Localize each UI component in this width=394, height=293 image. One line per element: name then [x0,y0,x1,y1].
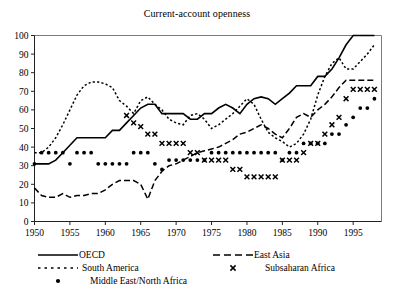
dot-marker [273,151,277,155]
dot-marker [132,151,136,155]
y-tick-label: 0 [24,217,29,227]
x-marker [152,132,157,137]
legend-label-oecd: OECD [79,250,105,260]
y-tick-label: 50 [19,124,29,134]
dot-marker [82,151,86,155]
y-tick-label: 40 [19,143,29,153]
x-marker [252,174,257,179]
dot-marker [231,151,235,155]
x-marker [209,158,214,163]
x-marker [372,87,377,92]
y-tick-label: 90 [19,50,29,60]
chart-title: Current-account openness [0,8,394,19]
x-marker [259,174,264,179]
dot-marker [295,151,299,155]
dot-marker [68,162,72,166]
dot-marker [47,151,51,155]
x-marker [245,174,250,179]
x-marker [294,158,299,163]
dot-marker [167,158,171,162]
legend-label-middle-east-north-africa: Middle East/North Africa [90,276,188,286]
dot-marker [146,151,150,155]
x-tick-label: 1950 [25,228,44,238]
legend-label-subsaharan-africa: Subsaharan Africa [265,263,336,273]
x-marker [322,132,327,137]
x-marker [138,124,143,129]
y-tick-label: 70 [19,87,29,97]
dot-marker [139,151,143,155]
dot-marker [259,151,263,155]
y-tick-label: 60 [19,105,29,115]
dot-marker [174,158,178,162]
dot-marker [188,158,192,162]
x-marker [337,115,342,120]
x-marker [188,150,193,155]
x-marker [124,113,129,118]
x-marker [365,87,370,92]
chart-legend: OECDSouth AmericaMiddle East/North Afric… [38,250,336,286]
dot-marker [54,151,58,155]
dot-marker [365,106,369,110]
x-marker [230,167,235,172]
y-tick-label: 30 [19,161,29,171]
x-marker [145,132,150,137]
x-tick-label: 1995 [344,228,363,238]
dot-marker [181,158,185,162]
x-marker [223,158,228,163]
series-line [35,80,375,199]
dot-marker [40,151,44,155]
dot-marker [224,151,228,155]
dot-marker [89,151,93,155]
x-marker [358,87,363,92]
y-tick-label: 100 [14,31,29,41]
chart-figure: Current-account openness 010203040506070… [0,0,394,293]
y-tick-label: 10 [19,198,29,208]
dot-marker [61,151,65,155]
x-marker [344,96,349,101]
x-tick-label: 1965 [131,228,150,238]
dot-marker [358,106,362,110]
dot-marker [96,162,100,166]
x-marker [160,141,165,146]
dot-marker [351,115,355,119]
x-marker [216,158,221,163]
x-tick-label: 1985 [273,228,292,238]
series-east-asia [35,80,375,199]
x-marker [237,167,242,172]
x-tick-label: 1960 [96,228,115,238]
legend-label-east-asia: East Asia [254,250,290,260]
x-marker [330,122,335,127]
x-tick-label: 1975 [202,228,221,238]
x-tick-label: 1980 [237,228,256,238]
dot-marker [238,151,242,155]
dot-marker [373,97,377,101]
x-marker [351,87,356,92]
dot-marker [245,151,249,155]
legend-sample-dot [56,279,60,283]
dot-marker [33,162,37,166]
dot-marker [330,132,334,136]
x-marker [230,265,235,270]
x-tick-label: 1970 [167,228,186,238]
dot-marker [153,162,157,166]
dot-marker [217,151,221,155]
dot-marker [103,162,107,166]
dot-marker [111,162,115,166]
dot-marker [75,151,79,155]
dot-marker [302,141,306,145]
x-marker [273,174,278,179]
dot-marker [288,151,292,155]
chart-canvas: 0102030405060708090100195019551960196519… [0,0,394,293]
x-tick-label: 1990 [308,228,327,238]
dot-marker [160,168,164,172]
dot-marker [252,151,256,155]
legend-label-south-america: South America [82,263,140,273]
y-tick-label: 80 [19,68,29,78]
x-marker [301,150,306,155]
x-tick-label: 1955 [60,228,79,238]
dot-marker [323,141,327,145]
y-tick-label: 20 [19,180,29,190]
x-marker [174,141,179,146]
x-marker [287,158,292,163]
dot-marker [195,158,199,162]
